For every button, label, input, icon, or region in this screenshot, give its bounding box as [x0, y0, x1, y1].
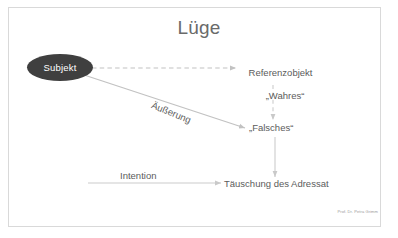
node-falsches-label: „Falsches“	[249, 122, 293, 133]
slide-title: Lüge	[0, 17, 398, 39]
node-subjekt-label: Subjekt	[43, 62, 76, 73]
author-credit: Prof. Dr. Petra Grimm	[300, 210, 378, 215]
node-referenzobjekt: Referenzobjekt „Wahres“	[238, 56, 358, 123]
node-subjekt: Subjekt	[27, 54, 93, 81]
edge-label-intention: Intention	[120, 170, 156, 181]
slide-canvas: Referenzobjekt : horizontal dashed --> "…	[0, 0, 398, 238]
node-referenzobjekt-line2: „Wahres“	[238, 90, 332, 101]
node-referenzobjekt-line1: Referenzobjekt	[249, 67, 313, 78]
edge-subject-to-false	[72, 71, 245, 128]
node-taeuschung-label: Täuschung des Adressat	[224, 178, 329, 189]
